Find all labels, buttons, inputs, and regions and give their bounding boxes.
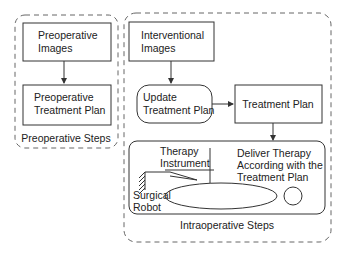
preop-plan-line1: Preoperative [34,91,94,103]
interventional-images-node: Interventional Images [129,22,214,61]
deliver-line2: According with the [237,159,323,171]
intraoperative-steps-label: Intraoperative Steps [180,219,274,231]
treatment-plan-node: Treatment Plan [235,85,322,123]
interventional-images-line1: Interventional [141,29,204,41]
preoperative-steps-label: Preoperative Steps [21,132,110,144]
preop-images-line1: Preoperative [38,29,98,41]
diagram-canvas: Preoperative Steps Preoperative Images P… [0,0,342,254]
deliver-therapy-node: Deliver Therapy According with the Treat… [129,141,325,214]
deliver-line1: Deliver Therapy [237,147,312,159]
treatment-plan-label: Treatment Plan [242,98,314,110]
preop-plan-node: Preoperative Treatment Plan [23,85,111,125]
preop-plan-line2: Treatment Plan [34,104,106,116]
interventional-images-line2: Images [141,42,175,54]
update-plan-node: Update Treatment Plan [137,85,215,123]
instrument-line2: Instrument [160,157,210,169]
update-plan-line1: Update [143,91,177,103]
preop-images-line2: Images [38,42,72,54]
robot-line2: Robot [133,201,161,213]
preop-images-node: Preoperative Images [23,23,111,61]
update-plan-line2: Treatment Plan [143,104,215,116]
instrument-line1: Therapy [160,145,199,157]
deliver-line3: Treatment Plan [237,171,309,183]
